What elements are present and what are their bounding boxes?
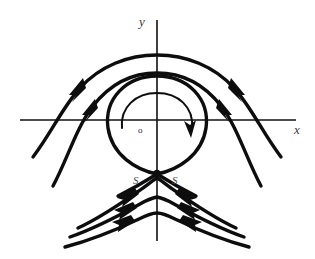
phase-portrait-figure: y x o S S (0, 0, 315, 259)
y-axis-label: y (137, 14, 145, 29)
saddle-label-right: S (172, 174, 178, 186)
origin-label: o (138, 125, 143, 135)
saddle-point-marker-group (153, 170, 161, 178)
saddle-point-marker (153, 170, 161, 178)
saddle-label-left: S (133, 174, 139, 186)
phase-portrait-canvas: y x o S S (0, 0, 315, 259)
x-axis-label: x (293, 122, 300, 137)
